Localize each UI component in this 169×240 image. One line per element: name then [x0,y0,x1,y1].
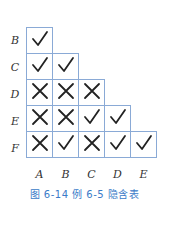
check-icon [82,107,102,131]
row-label: B [8,34,22,47]
cell-F-A [26,131,53,158]
row-label: D [8,88,22,101]
cross-icon [82,133,102,157]
cross-icon [56,107,76,131]
check-icon [108,133,128,157]
cross-icon [56,81,76,105]
cross-icon [30,133,50,157]
cell-F-C [78,131,105,158]
cell-D-A [26,79,53,106]
col-label: B [52,168,79,181]
row-label: C [8,61,22,74]
cell-F-D [104,131,131,158]
cell-E-C [78,105,105,132]
cell-F-B [52,131,79,158]
cell-E-D [104,105,131,132]
figure-caption: 图 6-14 例 6-5 隐含表 [0,186,169,201]
check-icon [56,133,76,157]
cell-F-E [130,131,157,158]
col-label: D [104,168,131,181]
check-icon [30,55,50,79]
cross-icon [82,81,102,105]
col-label: C [78,168,105,181]
col-label: A [26,168,53,181]
check-icon [56,55,76,79]
cross-icon [30,107,50,131]
cell-E-A [26,105,53,132]
row-label: E [8,115,22,128]
cross-icon [30,81,50,105]
check-icon [108,107,128,131]
col-label: E [130,168,157,181]
cell-D-C [78,79,105,106]
cell-E-B [52,105,79,132]
cell-C-B [52,53,79,80]
check-icon [134,133,154,157]
cell-B-A [26,27,53,54]
check-icon [30,29,50,53]
row-label: F [8,142,22,155]
cell-C-A [26,53,53,80]
cell-D-B [52,79,79,106]
